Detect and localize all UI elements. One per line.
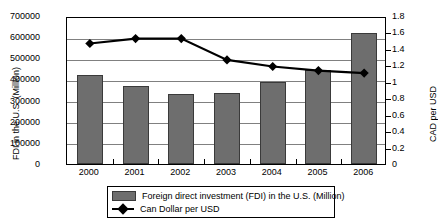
line-marker — [85, 39, 94, 48]
plot-area — [66, 17, 386, 165]
y-axis-left-tick-label: 600000 — [0, 33, 40, 42]
y-axis-left-tick-label: 500000 — [0, 54, 40, 63]
y-axis-right-tick-label: 1 — [392, 78, 418, 87]
y-axis-left-tick-label: 0 — [0, 160, 40, 169]
legend-label-cad: Can Dollar per USD — [140, 204, 220, 214]
y-axis-right-tick-label: 1.6 — [392, 28, 418, 37]
line-marker — [314, 66, 323, 75]
legend: Foreign direct investment (FDI) in the U… — [107, 186, 335, 218]
x-axis-tick-label: 2004 — [249, 167, 295, 177]
line-marker — [360, 68, 369, 77]
y-axis-right-tick-label: 0 — [392, 160, 418, 169]
y-axis-right-tick-label: 0.4 — [392, 127, 418, 136]
x-axis-tick-label: 2003 — [203, 167, 249, 177]
x-axis-tick-label: 2002 — [157, 167, 203, 177]
legend-item-fdi: Foreign direct investment (FDI) in the U… — [112, 189, 330, 202]
line-marker — [268, 62, 277, 71]
line-marker — [177, 34, 186, 43]
y-axis-left-tick-label: 300000 — [0, 97, 40, 106]
y-axis-left-tick-label: 200000 — [0, 118, 40, 127]
x-axis-tick-label: 2006 — [340, 167, 386, 177]
y-axis-right-tick-label: 1.4 — [392, 45, 418, 54]
line-series — [67, 18, 387, 166]
y-axis-right-title: CAD per USD — [428, 86, 438, 142]
bar-swatch-icon — [112, 191, 136, 201]
y-axis-right-tick-label: 1.8 — [392, 12, 418, 21]
y-axis-right-tick-label: 0.6 — [392, 111, 418, 120]
y-axis-left-tick-label: 100000 — [0, 139, 40, 148]
x-axis-tick-label: 2000 — [66, 167, 112, 177]
line-marker — [222, 55, 231, 64]
line-diamond-marker-icon — [112, 204, 134, 214]
x-axis-tick-label: 2005 — [294, 167, 340, 177]
line-marker — [131, 34, 140, 43]
legend-item-cad: Can Dollar per USD — [112, 202, 330, 215]
legend-label-fdi: Foreign direct investment (FDI) in the U… — [142, 191, 345, 201]
y-axis-right-tick-label: 1.2 — [392, 61, 418, 70]
y-axis-left-tick-label: 400000 — [0, 75, 40, 84]
y-axis-left-tick-label: 700000 — [0, 12, 40, 21]
x-axis-tick-label: 2001 — [112, 167, 158, 177]
y-axis-right-tick-label: 0.2 — [392, 144, 418, 153]
y-axis-right-tick-label: 0.8 — [392, 94, 418, 103]
